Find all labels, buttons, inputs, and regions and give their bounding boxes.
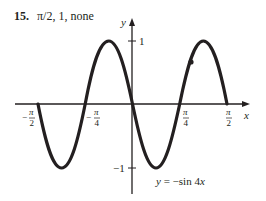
svg-text:−: −: [86, 112, 91, 122]
y-axis-arrow-icon: [129, 18, 135, 26]
svg-text:2: 2: [227, 118, 232, 128]
svg-text:π: π: [29, 107, 34, 117]
svg-text:π: π: [226, 107, 231, 117]
y-tick-label-neg1: −1: [113, 162, 125, 174]
equation-label: y = −sin 4x: [155, 175, 205, 187]
x-tick-label-neg-pi-4: − π 4: [86, 107, 100, 128]
x-axis-arrow-icon: [242, 101, 250, 107]
svg-text:2: 2: [30, 118, 35, 128]
x-axis-label: x: [243, 109, 249, 121]
y-tick-label-1: 1: [139, 35, 145, 47]
svg-text:4: 4: [184, 118, 189, 128]
x-tick-label-pi-4: π 4: [183, 107, 189, 128]
x-tick-label-neg-pi-2: − π 2: [22, 107, 35, 128]
svg-text:−: −: [22, 112, 27, 122]
svg-text:4: 4: [95, 118, 100, 128]
graph: y x 1 −1 − π 2 − π 4 π 4 π 2 y = −sin 4x: [0, 0, 266, 201]
curve-point: [188, 59, 193, 64]
y-axis-label: y: [120, 16, 126, 28]
svg-text:π: π: [183, 107, 188, 117]
svg-text:π: π: [94, 107, 99, 117]
x-tick-label-pi-2: π 2: [226, 107, 232, 128]
